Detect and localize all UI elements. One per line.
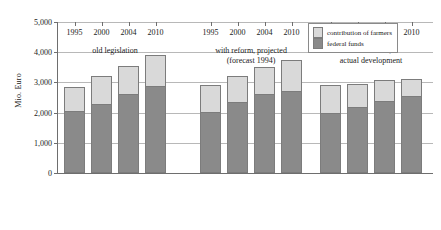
bar-2010-g2: [281, 60, 302, 173]
x-axis-tick: [412, 22, 413, 26]
y-axis-tick-label: 2,000: [34, 108, 52, 117]
bar-1995-g2: [200, 85, 221, 173]
bar-segment-federal-funds: [254, 94, 275, 173]
group-caption-line: old legislation: [40, 46, 190, 56]
bar-segment-contribution-of-farmers: [401, 79, 422, 97]
bar-segment-federal-funds: [200, 112, 221, 173]
bar-2010-g3: [401, 79, 422, 173]
federal-swatch-icon: [313, 38, 323, 49]
y-axis-tick-label: 3,000: [34, 78, 52, 87]
bar-segment-federal-funds: [64, 111, 85, 173]
legend-item-federal-funds: federal funds: [313, 38, 392, 49]
x-axis-tick: [156, 22, 157, 26]
bar-2000-g3: [347, 84, 368, 173]
y-axis-tick: [54, 82, 58, 83]
bar-segment-contribution-of-farmers: [374, 80, 395, 101]
bar-2000-g2: [227, 76, 248, 173]
bar-2004-g3: [374, 80, 395, 173]
bar-segment-contribution-of-farmers: [227, 76, 248, 103]
bar-2004-g2: [254, 67, 275, 173]
x-axis-label-2010: 2010: [272, 28, 312, 37]
group-caption-1: old legislation: [40, 46, 190, 56]
legend-label-federal: federal funds: [327, 40, 364, 48]
legend-label-farmers: contribution of farmers: [327, 29, 392, 37]
bar-segment-federal-funds: [91, 104, 112, 173]
bar-segment-contribution-of-farmers: [64, 87, 85, 112]
y-axis-tick-label: 1,000: [34, 138, 52, 147]
bar-segment-federal-funds: [347, 107, 368, 173]
bar-segment-federal-funds: [374, 101, 395, 173]
x-axis-tick: [75, 22, 76, 26]
y-axis-title: Mio. Euro: [14, 51, 23, 131]
y-axis-tick: [54, 22, 58, 23]
bar-2010-g1: [145, 55, 166, 173]
bar-segment-contribution-of-farmers: [91, 76, 112, 104]
x-axis-label-2010: 2010: [136, 28, 176, 37]
bar-2004-g1: [118, 66, 139, 173]
bar-segment-federal-funds: [227, 102, 248, 173]
bar-segment-contribution-of-farmers: [118, 66, 139, 96]
bar-segment-federal-funds: [281, 91, 302, 173]
chart-legend: contribution of farmers federal funds: [308, 23, 398, 53]
x-axis-tick: [238, 22, 239, 26]
group-caption-line: actual development: [296, 56, 441, 66]
farmers-swatch-icon: [313, 27, 323, 38]
x-axis-tick: [265, 22, 266, 26]
y-axis-tick-label: 5,000: [34, 18, 52, 27]
y-axis-tick: [54, 113, 58, 114]
x-axis-tick: [129, 22, 130, 26]
bar-1995-g1: [64, 87, 85, 173]
stacked-bar-chart: Mio. Euro 01,0002,0003,0004,0005,0001995…: [0, 0, 441, 230]
bar-segment-contribution-of-farmers: [320, 85, 341, 113]
bar-segment-federal-funds: [401, 96, 422, 173]
bar-segment-federal-funds: [320, 113, 341, 173]
y-axis-tick: [54, 173, 58, 174]
bar-segment-contribution-of-farmers: [200, 85, 221, 112]
y-axis-tick: [54, 143, 58, 144]
y-axis-tick-label: 0: [48, 169, 52, 178]
bar-2000-g1: [91, 76, 112, 173]
x-axis-tick: [102, 22, 103, 26]
bar-1995-g3: [320, 85, 341, 173]
bar-segment-contribution-of-farmers: [254, 67, 275, 94]
x-axis-tick: [292, 22, 293, 26]
bar-segment-federal-funds: [118, 94, 139, 173]
bar-segment-contribution-of-farmers: [347, 84, 368, 108]
x-axis-tick: [211, 22, 212, 26]
bar-segment-contribution-of-farmers: [145, 55, 166, 87]
legend-item-contribution-of-farmers: contribution of farmers: [313, 27, 392, 38]
bar-segment-federal-funds: [145, 86, 166, 173]
